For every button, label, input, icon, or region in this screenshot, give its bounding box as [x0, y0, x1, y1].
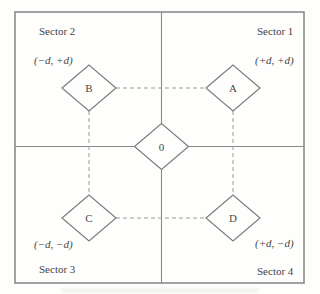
coord-label-sector-2: (−d, +d): [34, 54, 73, 67]
node-b-label: B: [85, 82, 92, 94]
coord-label-sector-1: (+d, +d): [255, 54, 294, 67]
node-d-label: D: [229, 212, 237, 224]
sector-3-label: Sector 3: [39, 263, 76, 275]
sector-2-label: Sector 2: [39, 25, 75, 37]
coord-label-sector-3: (−d, −d): [34, 238, 73, 251]
sector-diagram-figure: A B 0 C D Sector 2 Sector 1 Sector 3 Sec…: [0, 0, 320, 294]
coord-label-sector-4: (+d, −d): [255, 237, 294, 250]
sector-4-label: Sector 4: [257, 265, 294, 277]
node-c-label: C: [85, 212, 92, 224]
node-a-label: A: [229, 82, 237, 94]
sector-1-label: Sector 1: [257, 25, 293, 37]
sector-diagram-canvas: A B 0 C D Sector 2 Sector 1 Sector 3 Sec…: [0, 0, 320, 294]
node-center-label: 0: [159, 141, 165, 153]
caption-remnant: [62, 289, 258, 292]
